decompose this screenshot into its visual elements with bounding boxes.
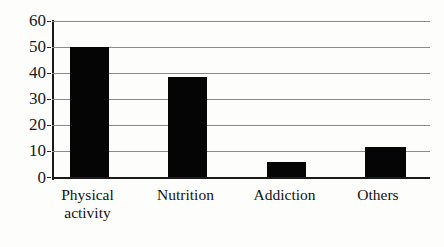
x-axis-label-physical-activity-line2: activity xyxy=(35,204,140,222)
x-axis-label-physical-activity-line1: Physical xyxy=(35,186,140,204)
y-tick-mark-10 xyxy=(47,151,51,152)
x-axis-label-others: Others xyxy=(333,186,423,204)
y-tick-label-10: 10 xyxy=(16,142,46,159)
y-tick-label-30: 30 xyxy=(16,90,46,107)
bar-addiction xyxy=(267,162,306,178)
y-tick-mark-0 xyxy=(47,177,51,178)
y-tick-mark-50 xyxy=(47,47,51,48)
bar-nutrition xyxy=(168,77,207,178)
y-tick-label-20: 20 xyxy=(16,116,46,133)
bar-others xyxy=(365,147,406,178)
y-tick-label-50: 50 xyxy=(16,38,46,55)
y-tick-mark-30 xyxy=(47,99,51,100)
bar-physical-activity xyxy=(70,47,109,178)
y-tick-mark-40 xyxy=(47,73,51,74)
gridline-60 xyxy=(52,21,430,22)
x-axis-label-physical-activity: Physical activity xyxy=(35,186,140,222)
y-tick-label-0: 0 xyxy=(16,169,46,186)
x-axis-label-addiction: Addiction xyxy=(232,186,337,204)
y-tick-label-60: 60 xyxy=(16,12,46,29)
y-tick-mark-20 xyxy=(47,125,51,126)
y-tick-label-40: 40 xyxy=(16,64,46,81)
x-axis-label-nutrition: Nutrition xyxy=(133,186,238,204)
plot-area xyxy=(52,21,430,178)
bar-chart-figure: 60 50 40 30 20 10 0 Physical activity Nu… xyxy=(0,0,444,247)
y-tick-mark-60 xyxy=(47,21,51,22)
x-axis-baseline xyxy=(52,177,430,179)
